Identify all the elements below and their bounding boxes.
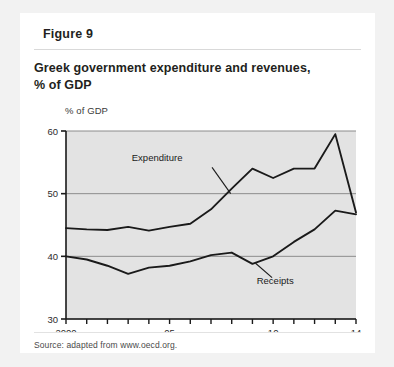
- figure-number-tab: Figure 9: [34, 23, 134, 49]
- chart-container: % of GDP 30405060 2000051014 Expenditure…: [34, 103, 364, 333]
- source-divider: [34, 332, 361, 333]
- figure-number-label: Figure 9: [43, 27, 93, 41]
- y-tick-label: 50: [47, 188, 58, 199]
- y-axis-tick-labels: 30405060: [47, 126, 58, 325]
- annotation-label-receipts: Receipts: [257, 275, 294, 286]
- y-tick-label: 30: [47, 314, 58, 325]
- y-tick-label: 60: [47, 126, 58, 137]
- figure-title-line-2: % of GDP: [34, 77, 354, 94]
- y-tick-label: 40: [47, 251, 58, 262]
- figure-card: Figure 9 Greek government expenditure an…: [20, 13, 375, 353]
- line-chart-plot: 30405060 2000051014 ExpenditureReceipts: [34, 103, 364, 333]
- annotation-label-expenditure: Expenditure: [132, 152, 183, 163]
- figure-title-line-1: Greek government expenditure and revenue…: [34, 60, 354, 77]
- figure-title: Greek government expenditure and revenue…: [34, 60, 354, 94]
- figure-page: Figure 9 Greek government expenditure an…: [0, 0, 394, 367]
- tab-divider: [34, 49, 361, 50]
- source-note: Source: adapted from www.oecd.org.: [34, 340, 177, 350]
- plot-background: [66, 131, 356, 319]
